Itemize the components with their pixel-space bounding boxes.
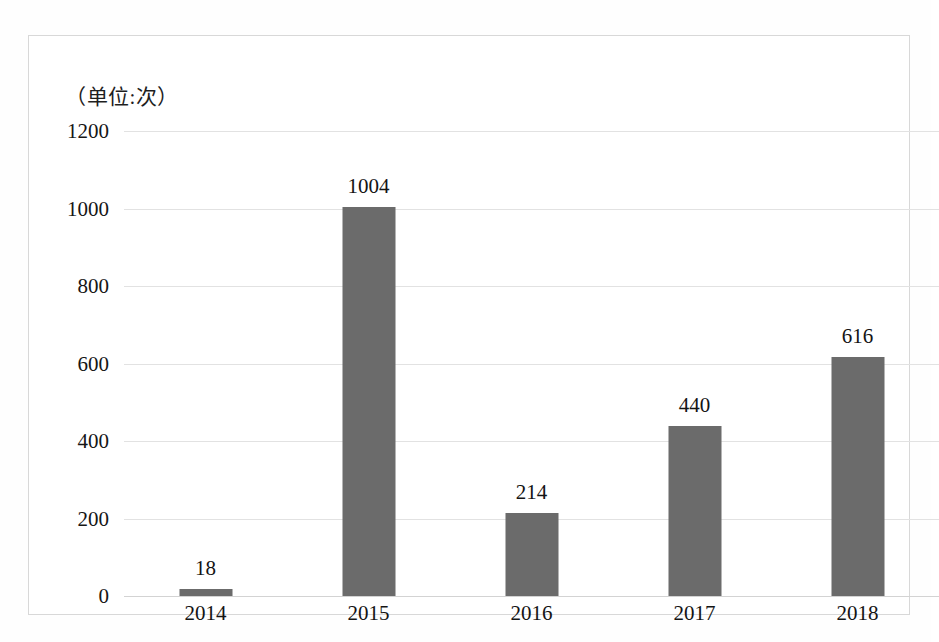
bar-value-label: 214 [516, 480, 548, 505]
x-axis-tick-label: 2016 [450, 601, 613, 626]
x-axis-tick-label: 2018 [776, 601, 939, 626]
bar-value-label: 1004 [348, 174, 390, 199]
bar-slot: 214 [450, 131, 613, 596]
y-axis-tick-label: 1200 [67, 119, 109, 144]
y-axis-tick-label: 0 [99, 584, 110, 609]
bar[interactable] [668, 426, 721, 597]
x-axis-tick-label: 2015 [287, 601, 450, 626]
plot-area: 181004214440616 [124, 131, 939, 596]
y-axis-tick-label: 800 [78, 274, 110, 299]
bar-slot: 18 [124, 131, 287, 596]
x-axis-tick-labels: 20142015201620172018 [124, 601, 939, 635]
bar[interactable] [342, 207, 395, 596]
y-axis-tick-label: 200 [78, 506, 110, 531]
bar-slot: 440 [613, 131, 776, 596]
y-axis-tick-label: 1000 [67, 196, 109, 221]
y-axis-tick-label: 600 [78, 351, 110, 376]
bar[interactable] [831, 357, 884, 596]
bar-value-label: 616 [842, 324, 874, 349]
chart-frame: （单位:次） 020040060080010001200 18100421444… [28, 35, 910, 615]
bar[interactable] [505, 513, 558, 596]
bar-value-label: 440 [679, 393, 711, 418]
gridline [124, 596, 939, 597]
chart-unit-label: （单位:次） [65, 80, 179, 110]
y-axis-tick-label: 400 [78, 429, 110, 454]
x-axis-tick-label: 2017 [613, 601, 776, 626]
bar[interactable] [179, 589, 232, 596]
bar-value-label: 18 [195, 556, 216, 581]
y-axis-tick-labels: 020040060080010001200 [57, 131, 109, 596]
bar-slot: 616 [776, 131, 939, 596]
x-axis-tick-label: 2014 [124, 601, 287, 626]
bar-slot: 1004 [287, 131, 450, 596]
